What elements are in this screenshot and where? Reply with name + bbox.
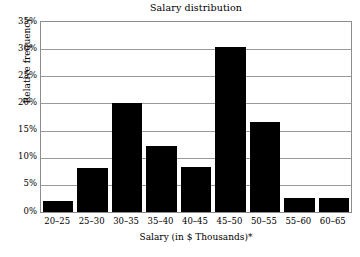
bar bbox=[319, 198, 349, 212]
bar bbox=[77, 168, 107, 212]
y-tick-label: 5% bbox=[3, 179, 37, 188]
bar bbox=[146, 146, 176, 212]
x-tick-label: 35–40 bbox=[143, 215, 177, 227]
y-tick-label: 30% bbox=[3, 44, 37, 53]
gridline bbox=[41, 131, 351, 132]
gridline bbox=[41, 49, 351, 50]
x-tick-label: 25–30 bbox=[74, 215, 108, 227]
x-tick-label: 20–25 bbox=[40, 215, 74, 227]
bar bbox=[43, 201, 73, 212]
chart-title: Salary distribution bbox=[40, 2, 352, 14]
x-axis-tick-labels: 20–2525–3030–3535–4040–4545–5050–5555–60… bbox=[40, 215, 352, 229]
x-tick-label: 30–35 bbox=[109, 215, 143, 227]
y-tick-label: 15% bbox=[3, 125, 37, 134]
x-tick-label: 55–60 bbox=[281, 215, 315, 227]
gridline bbox=[41, 76, 351, 77]
x-tick-label: 50–55 bbox=[247, 215, 281, 227]
bar bbox=[112, 103, 142, 212]
y-tick-label: 0% bbox=[3, 207, 37, 216]
y-tick-label: 25% bbox=[3, 71, 37, 80]
y-axis-tick-labels: 0%5%10%15%20%25%30%35% bbox=[0, 21, 37, 213]
gridline bbox=[41, 158, 351, 159]
bar bbox=[284, 198, 314, 212]
gridline bbox=[41, 103, 351, 104]
chart-figure: Salary distribution Relative frequency 0… bbox=[0, 0, 360, 257]
x-tick-label: 40–45 bbox=[178, 215, 212, 227]
y-tick-label: 10% bbox=[3, 152, 37, 161]
bar bbox=[215, 47, 245, 212]
x-tick-label: 60–65 bbox=[316, 215, 350, 227]
x-tick-label: 45–50 bbox=[212, 215, 246, 227]
x-axis-title: Salary (in $ Thousands)* bbox=[40, 231, 352, 243]
plot-area bbox=[40, 21, 352, 213]
y-tick-label: 20% bbox=[3, 98, 37, 107]
bar bbox=[250, 122, 280, 212]
bar bbox=[181, 167, 211, 212]
y-tick-label: 35% bbox=[3, 17, 37, 26]
